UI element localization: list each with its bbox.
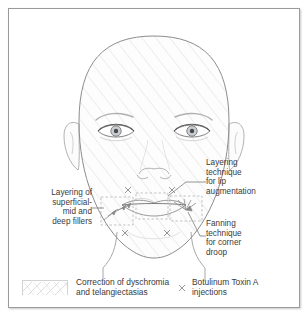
annotation-corner-droop: Fanning technique for corner droop: [206, 219, 298, 257]
legend: Correction of dyschromia and telangiecta…: [18, 276, 294, 304]
x-marker-icon: [176, 280, 188, 295]
legend-label-dyschromia: Correction of dyschromia and telangiecta…: [76, 277, 169, 297]
legend-label-botulinum: Botulinum Toxin A injections: [192, 277, 258, 297]
annotation-left-fillers: Layering of superficial- mid and deep fi…: [14, 188, 92, 226]
hatch-swatch-icon: [22, 280, 68, 295]
annotation-lip-augmentation: Layering technique for lip augmentation: [206, 158, 298, 196]
legend-item-botulinum: Botulinum Toxin A injections: [176, 277, 258, 297]
figure-root: Layering of superficial- mid and deep fi…: [0, 0, 308, 319]
legend-item-dyschromia: Correction of dyschromia and telangiecta…: [22, 277, 169, 297]
